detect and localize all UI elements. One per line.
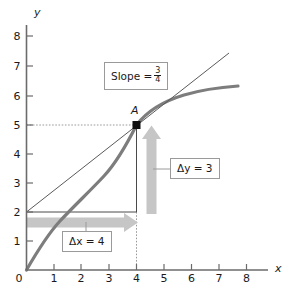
x-tick-label-5: 5 <box>157 272 171 285</box>
x-tick-label-6: 6 <box>185 272 199 285</box>
tangent-slope-figure: x y 0 1 2 3 4 5 6 7 8 1 2 3 4 5 6 7 8 A … <box>0 0 290 297</box>
x-tick-label-7: 7 <box>212 272 226 285</box>
delta-x-arrow <box>27 213 138 232</box>
y-tick-label-8: 8 <box>10 30 24 43</box>
delta-y-arrow <box>142 126 161 215</box>
y-tick-label-6: 6 <box>10 90 24 103</box>
delta-y-callout-text: Δy = 3 <box>177 163 213 174</box>
x-tick-label-0: 0 <box>12 272 26 285</box>
slope-fraction: 3 4 <box>154 67 161 85</box>
slope-denominator: 4 <box>154 76 161 84</box>
y-axis-ticks <box>27 36 34 241</box>
y-tick-label-4: 4 <box>10 148 24 161</box>
x-axis-label: x <box>275 262 282 275</box>
x-axis-ticks <box>54 264 247 270</box>
slope-callout-text: Slope = <box>111 71 152 82</box>
x-tick-label-3: 3 <box>102 272 116 285</box>
y-tick-label-2: 2 <box>10 206 24 219</box>
slope-numerator: 3 <box>154 67 161 75</box>
y-tick-label-1: 1 <box>10 235 24 248</box>
plot-canvas <box>0 0 290 297</box>
y-tick-label-5: 5 <box>10 119 24 132</box>
y-axis-label: y <box>34 6 41 19</box>
x-tick-label-8: 8 <box>240 272 254 285</box>
point-a-marker <box>133 121 141 129</box>
x-tick-label-1: 1 <box>47 272 61 285</box>
delta-y-callout-box: Δy = 3 <box>170 158 220 179</box>
y-tick-label-3: 3 <box>10 177 24 190</box>
delta-x-callout-box: Δx = 4 <box>62 231 112 252</box>
y-tick-label-7: 7 <box>10 60 24 73</box>
x-tick-label-4: 4 <box>130 272 144 285</box>
slope-callout-box: Slope = 3 4 <box>104 62 168 90</box>
x-tick-label-2: 2 <box>74 272 88 285</box>
delta-x-callout-text: Δx = 4 <box>69 236 105 247</box>
point-a-label: A <box>131 104 139 117</box>
